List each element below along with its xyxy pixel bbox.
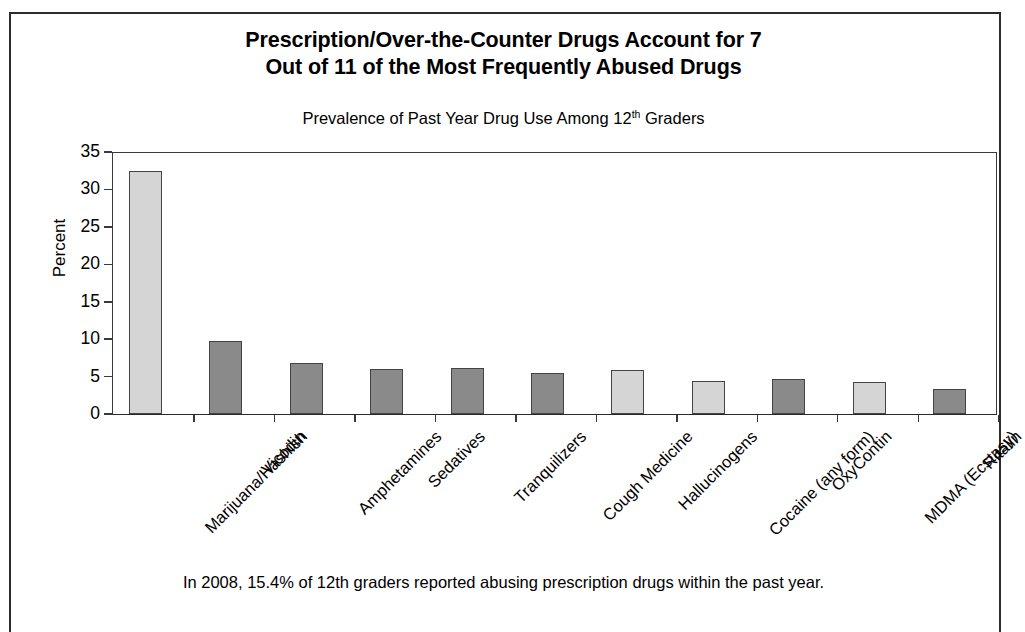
bar xyxy=(853,382,886,414)
y-tick-label: 30 xyxy=(54,180,100,198)
x-axis-label: Tranquilizers xyxy=(511,427,591,507)
y-tick-label: 20 xyxy=(54,255,100,273)
x-axis-label: Cocaine (any form) xyxy=(766,427,879,540)
y-tick-label: 25 xyxy=(54,218,100,236)
y-tick-mark xyxy=(104,376,112,378)
bar xyxy=(129,171,162,414)
bar xyxy=(370,369,403,414)
bar xyxy=(531,373,564,414)
chart-footnote: In 2008, 15.4% of 12th graders reported … xyxy=(0,572,1007,592)
bar-series xyxy=(113,152,996,414)
y-tick-mark xyxy=(104,338,112,340)
y-tick-label: 5 xyxy=(54,368,100,386)
x-axis-label: Cough Medicine xyxy=(598,427,696,525)
bar xyxy=(772,379,805,414)
bar xyxy=(451,368,484,414)
bar xyxy=(209,341,242,414)
bar xyxy=(611,370,644,414)
y-tick-mark xyxy=(104,264,112,266)
x-axis-label: Vicodin xyxy=(257,427,308,478)
y-tick-mark xyxy=(104,151,112,153)
y-tick-mark xyxy=(104,301,112,303)
x-axis-labels: Marijuana/HashishVicodinAmphetaminesSeda… xyxy=(0,415,1007,565)
bar xyxy=(692,381,725,414)
y-tick-label: 15 xyxy=(54,293,100,311)
bar xyxy=(933,389,966,414)
y-tick-mark xyxy=(104,189,112,191)
y-tick-label: 10 xyxy=(54,330,100,348)
y-tick-label: 35 xyxy=(54,143,100,161)
bar xyxy=(290,363,323,414)
y-tick-mark xyxy=(104,226,112,228)
